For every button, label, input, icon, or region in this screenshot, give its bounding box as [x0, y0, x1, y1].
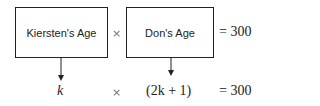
equals-300-bottom: = 300: [219, 83, 251, 99]
term-k: k: [57, 83, 63, 99]
times-operator-bottom: ×: [112, 86, 121, 99]
arrow-down-icon: [168, 58, 174, 76]
term-2k-plus-1: (2k + 1): [146, 83, 191, 99]
arrow-down-icon: [58, 58, 64, 81]
